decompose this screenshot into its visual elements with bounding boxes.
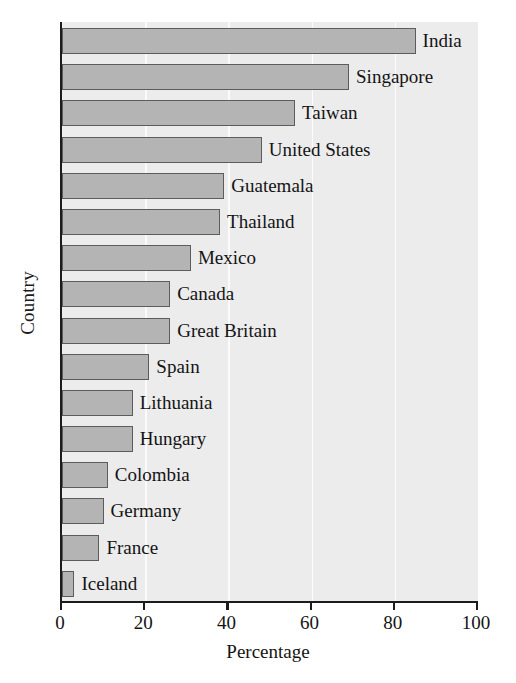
x-tick-mark-60: [310, 601, 312, 610]
bar-label-india: India: [416, 27, 462, 54]
bar-taiwan: [62, 100, 295, 126]
plot-area: IndiaSingaporeTaiwanUnited StatesGuatema…: [60, 22, 478, 603]
x-tick-label-60: 60: [280, 612, 340, 634]
bar-label-great-britain: Great Britain: [170, 317, 277, 344]
x-tick-label-0: 0: [30, 612, 90, 634]
bar-singapore: [62, 64, 349, 90]
bar-row: France: [62, 529, 478, 565]
bar-row: Lithuania: [62, 384, 478, 420]
y-axis-title: Country: [17, 213, 39, 393]
bar-label-colombia: Colombia: [108, 461, 190, 488]
bar-france: [62, 535, 99, 561]
bar-row: India: [62, 22, 478, 58]
bar-row: Germany: [62, 492, 478, 528]
bar-row: Spain: [62, 348, 478, 384]
bar-united-states: [62, 137, 262, 163]
x-tick-mark-100: [476, 601, 478, 610]
bar-row: Canada: [62, 275, 478, 311]
bar-hungary: [62, 426, 133, 452]
x-tick-label-80: 80: [363, 612, 423, 634]
x-axis-title: Percentage: [60, 641, 476, 663]
x-tick-label-20: 20: [113, 612, 173, 634]
bar-guatemala: [62, 173, 224, 199]
bar-label-thailand: Thailand: [220, 208, 295, 235]
bar-row: Taiwan: [62, 94, 478, 130]
bar-label-guatemala: Guatemala: [224, 172, 313, 199]
bar-thailand: [62, 209, 220, 235]
bar-spain: [62, 354, 149, 380]
bar-india: [62, 28, 416, 54]
bar-row: Hungary: [62, 420, 478, 456]
bar-lithuania: [62, 390, 133, 416]
x-tick-mark-40: [226, 601, 228, 610]
bar-iceland: [62, 571, 74, 597]
x-tick-label-100: 100: [446, 612, 506, 634]
bar-chart-figure: Country IndiaSingaporeTaiwanUnited State…: [0, 0, 516, 683]
bar-label-united-states: United States: [262, 136, 371, 163]
bar-canada: [62, 281, 170, 307]
bar-label-spain: Spain: [149, 353, 199, 380]
x-tick-mark-80: [393, 601, 395, 610]
bar-label-canada: Canada: [170, 280, 234, 307]
bar-label-france: France: [99, 534, 158, 561]
bar-mexico: [62, 245, 191, 271]
bar-row: Singapore: [62, 58, 478, 94]
bar-label-mexico: Mexico: [191, 244, 256, 271]
x-tick-mark-20: [143, 601, 145, 610]
bar-row: Great Britain: [62, 312, 478, 348]
bar-great-britain: [62, 318, 170, 344]
bar-label-taiwan: Taiwan: [295, 99, 358, 126]
bar-label-lithuania: Lithuania: [133, 389, 213, 416]
bar-row: Iceland: [62, 565, 478, 601]
bar-row: United States: [62, 131, 478, 167]
bar-label-iceland: Iceland: [74, 570, 137, 597]
bars-layer: IndiaSingaporeTaiwanUnited StatesGuatema…: [62, 22, 478, 601]
x-tick-mark-0: [60, 601, 62, 610]
bar-germany: [62, 498, 104, 524]
bar-label-germany: Germany: [104, 497, 182, 524]
x-tick-label-40: 40: [196, 612, 256, 634]
bar-label-singapore: Singapore: [349, 63, 433, 90]
bar-colombia: [62, 462, 108, 488]
bar-row: Guatemala: [62, 167, 478, 203]
bar-row: Thailand: [62, 203, 478, 239]
bar-row: Colombia: [62, 456, 478, 492]
bar-label-hungary: Hungary: [133, 425, 206, 452]
bar-row: Mexico: [62, 239, 478, 275]
